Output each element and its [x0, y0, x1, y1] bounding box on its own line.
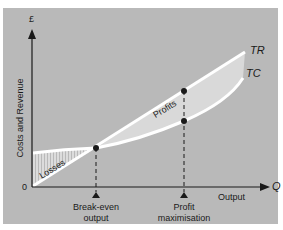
profitmax-tc-point — [181, 118, 187, 124]
x-axis-symbol: Q — [272, 181, 281, 191]
profitmax-label-line1: Profit — [173, 202, 194, 212]
y-axis-arrow-icon — [28, 29, 36, 39]
y-axis-title: Costs and Revenue — [15, 78, 25, 157]
x-axis-title: Output — [218, 192, 245, 202]
x-axis-arrow-icon — [260, 183, 270, 191]
breakeven-point — [93, 145, 99, 151]
profitmax-tr-point — [181, 88, 187, 94]
profitmax-label-line2: maximisation — [158, 213, 211, 223]
tr-label: TR — [250, 45, 265, 55]
profitmax-marker-icon — [180, 192, 188, 198]
breakeven-label-line2: output — [83, 213, 108, 223]
breakeven-label-line1: Break-even — [73, 202, 119, 212]
origin-label: 0 — [22, 182, 27, 192]
tc-label: TC — [246, 68, 261, 78]
y-axis-symbol: £ — [29, 14, 34, 24]
breakeven-marker-icon — [92, 192, 100, 198]
